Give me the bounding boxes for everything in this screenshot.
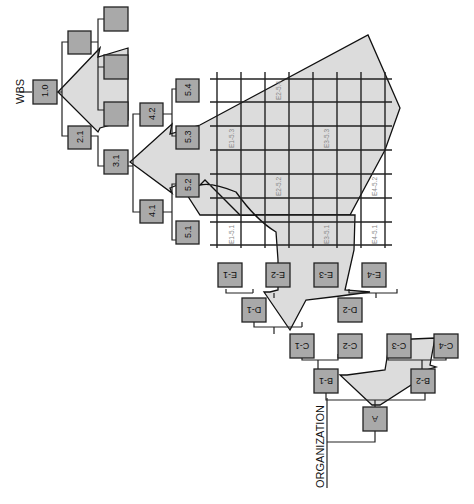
wbs-node-3-1[interactable]: 3.1 [104,150,128,174]
org-node-e-2[interactable]: E-2 [266,263,290,287]
cell-e1-5-3: E1-5.3 [228,128,235,148]
wbs-node-5-3[interactable]: 5.3 [176,126,199,149]
cell-e2-5-2: E2-5.2 [275,176,282,196]
wbs-node-4-1[interactable]: 4.1 [140,200,163,223]
cell-e4-5-2: E4-5.2 [371,176,378,196]
wbs-node-unlabeled [68,31,91,54]
wbs-node-2-1[interactable]: 2.1 [68,126,91,149]
org-node-a[interactable]: A [363,407,387,431]
org-node-label: E-3 [319,270,333,280]
org-node-label: D-1 [247,305,262,315]
cell-e3-5-1: E3-5.1 [323,224,330,244]
org-node-c-1[interactable]: C-1 [290,334,314,358]
wbs-organization-matrix-diagram: E1-5.3 E1-5.1 E2-5.4 E2-5.2 E3-5.3 E3-5.… [0,0,474,504]
org-node-e-4[interactable]: E-4 [362,263,386,287]
org-node-label: E-2 [271,270,285,280]
wbs-node-label: 5.1 [183,225,193,238]
org-node-d-2[interactable]: D-2 [338,298,362,322]
org-node-label: E-4 [367,270,381,280]
org-node-label: A [372,414,378,424]
wbs-node-unlabeled [104,7,128,31]
wbs-node-5-1[interactable]: 5.1 [176,221,199,244]
org-node-label: C-4 [439,341,454,351]
wbs-node-label: 5.2 [183,178,193,191]
wbs-node-5-4[interactable]: 5.4 [176,79,199,102]
org-node-label: C-1 [295,341,310,351]
shaded-regions [58,35,436,405]
wbs-node-unlabeled [104,55,128,79]
org-node-d-1[interactable]: D-1 [242,298,266,322]
wbs-node-unlabeled [104,102,128,126]
org-node-label: C-3 [392,341,407,351]
wbs-title: WBS [14,79,26,104]
cell-e3-5-3: E3-5.3 [323,128,330,148]
org-node-c-2[interactable]: C-2 [338,334,362,358]
org-node-b-2[interactable]: B-2 [411,369,435,393]
cell-e4-5-1: E4-5.1 [371,224,378,244]
org-node-label: B-2 [416,376,430,386]
wbs-node-4-2[interactable]: 4.2 [140,103,163,126]
wbs-node-label: 2.1 [75,130,85,143]
org-node-c-3[interactable]: C-3 [387,334,411,358]
wbs-node-label: 5.4 [183,83,193,96]
org-node-e-3[interactable]: E-3 [314,263,338,287]
cell-e1-5-1: E1-5.1 [228,224,235,244]
wbs-node-label: 1.0 [40,84,50,97]
wbs-node-label: 3.1 [111,154,121,167]
org-node-label: E-1 [223,270,237,280]
org-node-e-1[interactable]: E-1 [218,263,242,287]
wbs-node-label: 5.3 [183,130,193,143]
wbs-tree: 1.0 2.1 3.1 4.2 4.1 5.4 5.3 5.2 [33,7,199,244]
org-node-label: D-2 [343,305,358,315]
wbs-node-label: 4.1 [147,204,157,217]
org-node-b-1[interactable]: B-1 [314,369,338,393]
organization-title: ORGANIZATION [314,405,326,488]
org-node-label: B-1 [319,376,333,386]
wbs-node-1-0[interactable]: 1.0 [33,80,57,104]
wbs-node-label: 4.2 [147,107,157,120]
wbs-node-5-2[interactable]: 5.2 [176,174,199,197]
cell-e2-5-4: E2-5.4 [275,80,282,100]
org-node-label: C-2 [343,341,358,351]
org-node-c-4[interactable]: C-4 [434,334,458,358]
